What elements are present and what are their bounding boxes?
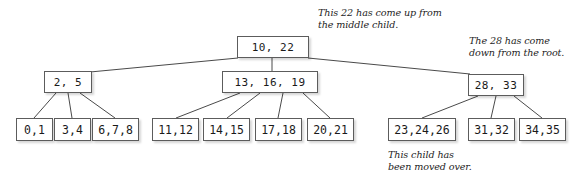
tree-node-leaf-9[interactable]: 34,35 (519, 118, 566, 141)
mid-internal-to-leaf-2 (278, 93, 283, 118)
tree-node-internal-0[interactable]: 2, 5 (44, 71, 92, 93)
right-internal-to-leaf-1 (491, 96, 496, 118)
tree-node-internal-2[interactable]: 28, 33 (468, 74, 524, 96)
tree-node-leaf-0[interactable]: 0,1 (16, 118, 53, 141)
mid-internal-to-leaf-3 (303, 93, 330, 118)
tree-node-leaf-1[interactable]: 3,4 (54, 118, 91, 141)
root-to-left-internal (90, 58, 238, 72)
tree-node-leaf-5[interactable]: 17,18 (255, 118, 302, 141)
annotation-child-moved: This child hasbeen moved over. (388, 149, 472, 172)
left-internal-to-leaf-0 (34, 93, 56, 118)
tree-node-leaf-8[interactable]: 31,32 (468, 118, 515, 141)
annotation-28-down: The 28 has comedown from the root. (469, 35, 564, 58)
tree-node-leaf-4[interactable]: 14,15 (203, 118, 250, 141)
annotation-child-moved-line-2: been moved over. (388, 161, 472, 173)
left-internal-to-leaf-1 (68, 93, 72, 118)
btree-figure: 10, 222, 513, 16, 1928, 330,13,46,7,811,… (0, 0, 578, 188)
right-internal-to-leaf-0 (422, 96, 478, 118)
tree-node-internal-1[interactable]: 13, 16, 19 (222, 71, 318, 93)
annotation-28-down-line-2: down from the root. (469, 47, 564, 59)
root-to-right-internal (308, 58, 470, 74)
annotation-22-up-line-1: This 22 has come up from (318, 7, 442, 19)
tree-node-root[interactable]: 10, 22 (237, 36, 309, 58)
right-internal-to-leaf-2 (514, 96, 542, 118)
annotation-22-up: This 22 has come up fromthe middle child… (318, 7, 442, 30)
left-internal-to-leaf-2 (80, 93, 115, 118)
tree-node-leaf-6[interactable]: 20,21 (307, 118, 354, 141)
annotation-22-up-line-2: the middle child. (318, 19, 442, 31)
annotation-28-down-line-1: The 28 has come (469, 35, 564, 47)
tree-node-leaf-2[interactable]: 6,7,8 (92, 118, 139, 141)
annotation-child-moved-line-1: This child has (388, 149, 472, 161)
tree-node-leaf-3[interactable]: 11,12 (152, 118, 199, 141)
mid-internal-to-leaf-1 (227, 93, 260, 118)
mid-internal-to-leaf-0 (176, 93, 240, 118)
tree-node-leaf-7[interactable]: 23,24,26 (388, 118, 456, 141)
